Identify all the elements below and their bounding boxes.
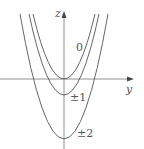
z-axis-arrow-icon	[62, 11, 67, 18]
curve-label-0: 0	[76, 42, 83, 53]
z-axis-label: z	[55, 8, 61, 19]
trace-diagram: z y 0 ±1 ±2	[0, 0, 144, 149]
y-axis-arrow-icon	[127, 77, 134, 82]
y-axis-label: y	[126, 84, 132, 95]
diagram-canvas	[0, 0, 144, 149]
curve-label-pm1: ±1	[70, 92, 86, 103]
curve-label-pm2: ±2	[77, 128, 93, 139]
